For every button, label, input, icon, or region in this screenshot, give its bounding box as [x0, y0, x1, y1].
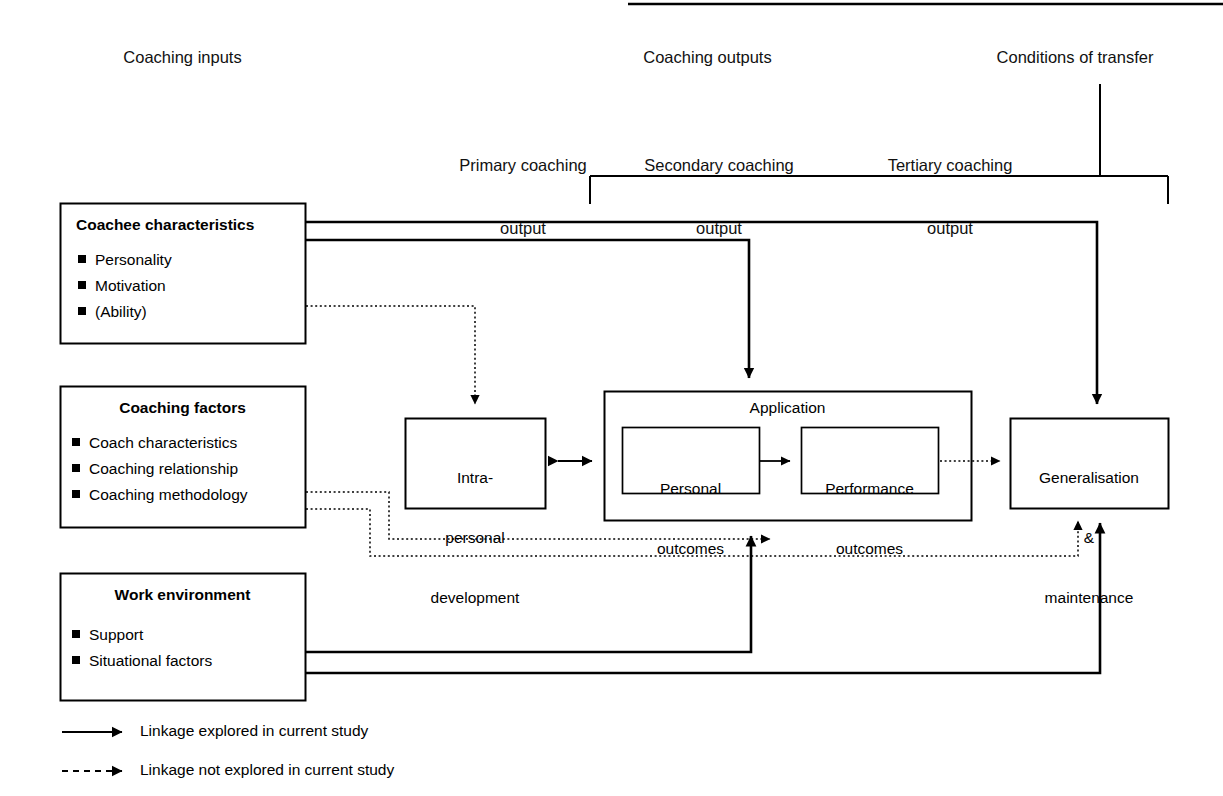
list-item: Coach characteristics: [72, 430, 307, 456]
list-item-label: Coaching methodology: [89, 482, 248, 508]
box-items-work-environment: Support Situational factors: [72, 622, 307, 674]
box-label-personal-outcomes: Personal outcomes: [622, 439, 759, 599]
bullet-square-icon: [72, 438, 80, 446]
personal-outcomes-line1: Personal: [622, 479, 759, 499]
list-item-label: Coaching relationship: [89, 456, 238, 482]
diagram-canvas: Coaching inputs Coaching outputs Conditi…: [0, 0, 1223, 796]
list-item: Support: [72, 622, 307, 648]
bullet-square-icon: [72, 490, 80, 498]
box-label-performance-outcomes: Performance outcomes: [801, 439, 938, 599]
legend-label-not-explored: Linkage not explored in current study: [140, 761, 394, 779]
box-title-work-environment: Work environment: [60, 584, 305, 606]
performance-outcomes-line1: Performance: [801, 479, 938, 499]
personal-outcomes-line2: outcomes: [622, 539, 759, 559]
subheader-tertiary-coaching-output: Tertiary coaching output: [855, 113, 1045, 281]
bullet-square-icon: [78, 255, 86, 263]
generalisation-line1: Generalisation: [1010, 468, 1168, 488]
box-items-coaching-factors: Coach characteristics Coaching relations…: [72, 430, 307, 508]
bullet-square-icon: [78, 307, 86, 315]
box-title-coachee-characteristics: Coachee characteristics: [76, 214, 254, 236]
list-item-label: Motivation: [95, 273, 166, 299]
subheader-secondary-coaching-output: Secondary coaching output: [600, 113, 838, 281]
list-item: Personality: [78, 247, 303, 273]
subheader-tertiary-line2: output: [855, 218, 1045, 239]
box-title-coaching-factors: Coaching factors: [60, 397, 305, 419]
list-item-label: (Ability): [95, 299, 147, 325]
box-label-application: Application: [604, 398, 971, 418]
generalisation-line3: maintenance: [1010, 588, 1168, 608]
intra-personal-line2: personal: [405, 528, 545, 548]
generalisation-line2: &: [1010, 528, 1168, 548]
bullet-square-icon: [72, 464, 80, 472]
subheader-tertiary-line1: Tertiary coaching: [855, 155, 1045, 176]
header-coaching-outputs: Coaching outputs: [575, 47, 840, 68]
list-item-label: Coach characteristics: [89, 430, 237, 456]
header-conditions-of-transfer: Conditions of transfer: [930, 47, 1220, 68]
link-coachee-to-intrapersonal-dashed: [306, 306, 475, 404]
bullet-square-icon: [72, 630, 80, 638]
box-label-intra-personal-development: Intra- personal development: [405, 428, 545, 648]
bullet-square-icon: [72, 656, 80, 664]
box-items-coachee-characteristics: Personality Motivation (Ability): [78, 247, 303, 325]
list-item: Coaching methodology: [72, 482, 307, 508]
header-coaching-inputs: Coaching inputs: [60, 47, 305, 68]
list-item-label: Support: [89, 622, 143, 648]
bullet-square-icon: [78, 281, 86, 289]
subheader-secondary-line1: Secondary coaching: [600, 155, 838, 176]
list-item-label: Situational factors: [89, 648, 212, 674]
performance-outcomes-line2: outcomes: [801, 539, 938, 559]
list-item-label: Personality: [95, 247, 172, 273]
legend-label-explored: Linkage explored in current study: [140, 722, 368, 740]
intra-personal-line3: development: [405, 588, 545, 608]
list-item: (Ability): [78, 299, 303, 325]
list-item: Situational factors: [72, 648, 307, 674]
subheader-secondary-line2: output: [600, 218, 838, 239]
intra-personal-line1: Intra-: [405, 468, 545, 488]
list-item: Motivation: [78, 273, 303, 299]
box-label-generalisation-maintenance: Generalisation & maintenance: [1010, 428, 1168, 648]
list-item: Coaching relationship: [72, 456, 307, 482]
